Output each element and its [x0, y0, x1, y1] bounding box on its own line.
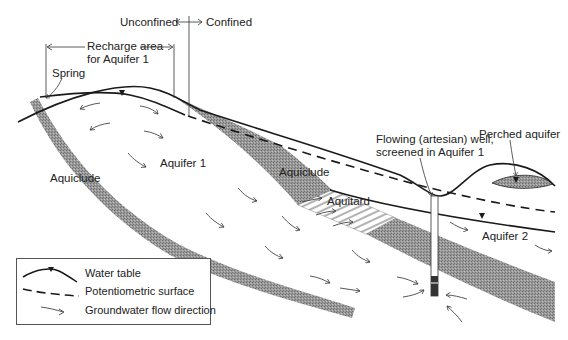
legend: Water table Potentiometric surface Groun… — [16, 258, 211, 325]
label-spring: Spring — [52, 67, 85, 80]
label-aquifer1: Aquifer 1 — [160, 157, 206, 170]
label-well-line2: screened in Aquifer 1 — [376, 146, 484, 159]
label-unconfined: Unconfined — [120, 16, 178, 29]
legend-item-water-table: Water table — [17, 265, 210, 283]
legend-label: Groundwater flow direction — [85, 304, 216, 317]
label-aquiclude-left: Aquiclude — [50, 172, 101, 185]
label-recharge-line1: Recharge area — [87, 40, 163, 53]
water-table-symbol-icon — [21, 265, 83, 283]
label-well-line1: Flowing (artesian) well, — [376, 133, 494, 146]
label-aquifer2: Aquifer 2 — [482, 230, 528, 243]
label-aquitard: Aquitard — [327, 195, 370, 208]
legend-item-potentiometric: Potentiometric surface — [17, 283, 210, 301]
label-recharge-line2: for Aquifer 1 — [87, 53, 149, 66]
flow-arrow-symbol-icon — [21, 302, 83, 320]
legend-label: Water table — [85, 267, 141, 280]
well-screen — [431, 276, 438, 296]
water-table-line — [40, 93, 185, 115]
label-aquiclude-mid: Aquiclude — [279, 166, 330, 179]
dashed-line-symbol-icon — [21, 283, 83, 301]
legend-label: Potentiometric surface — [85, 285, 194, 298]
label-confined: Confined — [206, 16, 252, 29]
legend-item-flow-direction: Groundwater flow direction — [17, 302, 210, 320]
label-perched-aquifer: Perched aquifer — [479, 128, 560, 141]
